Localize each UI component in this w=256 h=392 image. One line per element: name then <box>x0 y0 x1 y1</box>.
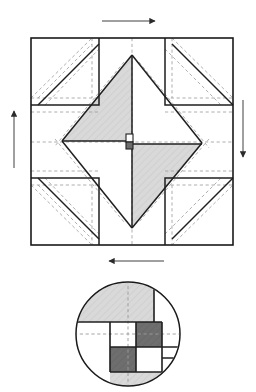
quilt-diagram-figure: Quilt block piecing diagram with rotatio… <box>0 0 256 392</box>
detail-patch-center-lower-right <box>136 347 162 372</box>
detail-patch-center-lower-left <box>110 347 136 372</box>
detail-patch-center-upper-right <box>136 322 162 347</box>
center-patch-dark <box>126 142 133 149</box>
detail-patch-center-upper-left <box>110 322 136 347</box>
diagram-canvas <box>0 0 256 392</box>
main-quilt-block <box>31 38 233 245</box>
center-patch-light <box>126 134 133 142</box>
